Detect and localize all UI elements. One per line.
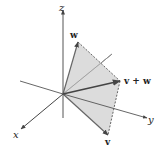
vector-addition-diagram: z x y w v + w v — [0, 0, 164, 149]
y-axis-label: y — [147, 114, 154, 125]
x-axis-label: x — [13, 129, 19, 140]
parallelogram-plane — [63, 42, 120, 135]
x-axis — [21, 94, 63, 129]
x-axis-negative — [20, 81, 63, 94]
v-label: v — [104, 137, 111, 147]
z-axis-label: z — [58, 2, 65, 13]
w-label: w — [69, 30, 78, 40]
diagram-svg: z x y w v + w v — [0, 0, 164, 149]
sum-label: v + w — [123, 76, 151, 86]
